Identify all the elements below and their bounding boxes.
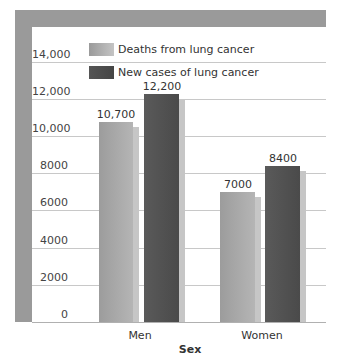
bar-men-new-cases (144, 94, 179, 322)
gridline-14000 (32, 62, 326, 63)
value-label-men-deaths: 10,700 (91, 108, 141, 121)
value-label-men-new: 12,200 (137, 80, 187, 93)
legend-swatch-new-cases (89, 66, 114, 79)
bar-shadow-men-deaths (133, 127, 139, 322)
bar-shadow-women-new (300, 171, 306, 322)
y-tick-0: 0 (32, 308, 68, 321)
y-tick-4000: 4000 (32, 234, 68, 247)
legend-label-deaths: Deaths from lung cancer (118, 43, 254, 56)
y-tick-14000: 14,000 (32, 48, 68, 61)
y-tick-12000: 12,000 (32, 85, 68, 98)
value-label-women-deaths: 7000 (213, 178, 263, 191)
x-tick-men: Men (110, 329, 170, 342)
bar-women-deaths (220, 192, 255, 322)
y-tick-2000: 2000 (32, 271, 68, 284)
y-tick-6000: 6000 (32, 196, 68, 209)
y-tick-8000: 8000 (32, 159, 68, 172)
bar-shadow-women-deaths (255, 197, 261, 322)
legend-label-new-cases: New cases of lung cancer (118, 66, 259, 79)
bar-women-new-cases (265, 166, 300, 322)
frame-left-band (15, 10, 32, 322)
bar-shadow-men-new (179, 100, 185, 322)
legend-swatch-deaths (89, 43, 114, 56)
x-tick-women: Women (232, 329, 292, 342)
value-label-women-new: 8400 (258, 152, 308, 165)
bar-men-deaths (99, 122, 133, 322)
x-axis-line (32, 322, 326, 323)
frame-top-band (15, 10, 326, 27)
x-axis-title: Sex (170, 343, 210, 356)
y-tick-10000: 10,000 (32, 122, 68, 135)
